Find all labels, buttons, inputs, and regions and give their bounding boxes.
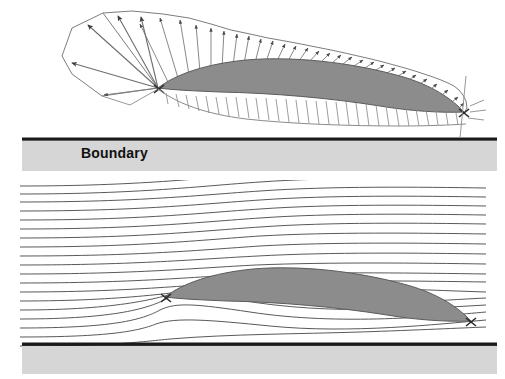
trailing-edge-ticks-top xyxy=(460,76,486,138)
boundary-bottom xyxy=(22,343,497,375)
boundary-line xyxy=(22,343,497,346)
panel-streamline-pattern: Boundary xyxy=(0,180,505,379)
figure-root: Boundary xyxy=(0,0,505,379)
streamlines xyxy=(20,180,486,346)
airfoil-shape-top xyxy=(158,59,464,112)
boundary-label-top: Boundary xyxy=(81,145,148,161)
boundary-line xyxy=(22,138,497,141)
leading-edge-suction-arrows xyxy=(72,16,158,88)
boundary-band xyxy=(22,346,497,374)
airfoil-shape-bottom xyxy=(165,268,471,321)
streamline-drawing xyxy=(0,180,505,379)
pressure-distribution-drawing xyxy=(0,0,505,172)
panel-pressure-distribution: Boundary xyxy=(0,0,505,172)
